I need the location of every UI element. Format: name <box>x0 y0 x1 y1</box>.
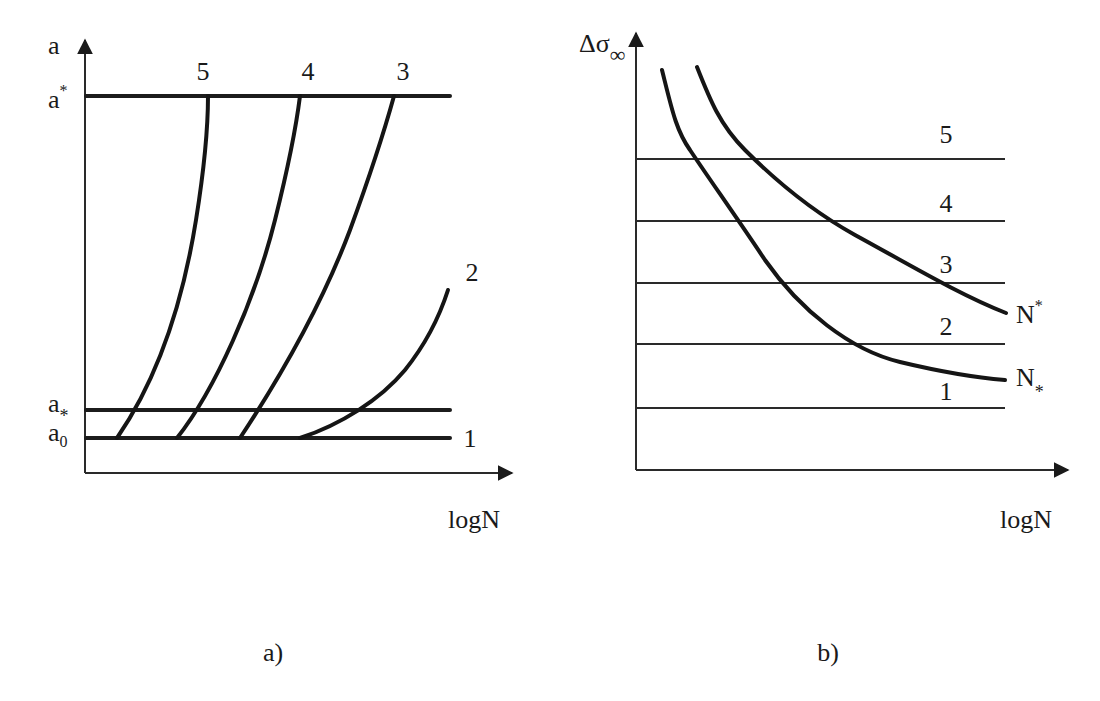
curve-label-2: 2 <box>466 258 479 287</box>
curve-n-upper <box>697 67 1006 313</box>
curve-label-4: 4 <box>302 57 315 86</box>
y-axis-label-b: Δσ∞ <box>579 29 625 67</box>
stress-label-5: 5 <box>940 120 953 149</box>
curve-2 <box>300 290 448 438</box>
label-a-star-upper: a* <box>48 82 68 114</box>
stress-label-1: 1 <box>940 377 953 406</box>
curve-label-3: 3 <box>397 57 410 86</box>
stress-label-3: 3 <box>940 250 953 279</box>
panel-b: Δσ∞ 5 4 3 2 1 N* N* logN b) <box>579 29 1068 667</box>
curve-4 <box>177 96 300 438</box>
x-axis-label-a: logN <box>448 505 500 534</box>
caption-b: b) <box>817 638 839 667</box>
y-axis-label-a: a <box>48 31 60 60</box>
label-n-lower: N* <box>1016 363 1044 402</box>
label-n-upper: N* <box>1016 297 1043 329</box>
panel-a: a a* a* a0 5 4 3 2 1 logN a) <box>48 31 512 667</box>
curve-5 <box>117 96 208 438</box>
curve-label-5: 5 <box>197 57 210 86</box>
stress-label-4: 4 <box>940 189 953 218</box>
figure: a a* a* a0 5 4 3 2 1 logN a) Δσ∞ 5 4 3 2… <box>0 0 1100 701</box>
caption-a: a) <box>263 638 283 667</box>
stress-label-2: 2 <box>940 312 953 341</box>
curve-n-lower <box>662 70 1005 380</box>
curve-label-1: 1 <box>464 424 477 453</box>
x-axis-label-b: logN <box>1000 505 1052 534</box>
